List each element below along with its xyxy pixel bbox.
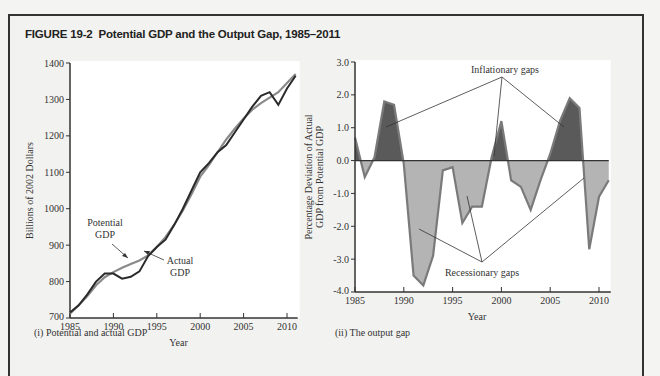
- y-tick-label-right: -1.0: [333, 188, 349, 199]
- x-tick-label-right: 1995: [443, 295, 463, 306]
- x-tick-label-right: 2010: [589, 295, 609, 306]
- annotation-potential-line1: Potential: [87, 217, 123, 228]
- y-tick-label-left: 900: [49, 240, 64, 251]
- x-axis-label-right: Year: [468, 311, 487, 322]
- y-tick-label-right: -2.0: [333, 221, 349, 232]
- y-tick-label-right: -4.0: [333, 285, 349, 296]
- inflationary-gaps-label: Inflationary gaps: [471, 64, 539, 75]
- y-tick-label-right: 2.0: [337, 89, 350, 100]
- y-tick-label-left: 700: [49, 311, 64, 322]
- y-tick-label-left: 1000: [44, 203, 64, 214]
- y-tick-label-right: 0.0: [337, 155, 350, 166]
- y-tick-label-left: 1200: [44, 130, 64, 141]
- x-tick-label-right: 2005: [540, 295, 560, 306]
- caption-left: (i) Potential and actual GDP: [34, 327, 147, 338]
- y-tick-label-right: 3.0: [337, 57, 350, 68]
- y-tick-label-left: 1300: [44, 94, 64, 105]
- y-axis-label-left: Billions of 2002 Dollars: [24, 142, 35, 239]
- x-tick-label-right: 1985: [345, 295, 365, 306]
- x-tick-label-right: 1990: [394, 295, 414, 306]
- x-tick-label-left: 1995: [147, 321, 167, 332]
- x-tick-label-right: 2000: [491, 295, 511, 306]
- recessionary-gaps-label: Recessionary gaps: [445, 267, 519, 278]
- x-tick-label-left: 2010: [277, 321, 297, 332]
- annotation-potential-gdp-line2: GDP: [95, 229, 115, 240]
- y-tick-label-right: 1.0: [337, 122, 350, 133]
- y-tick-label-left: 800: [49, 276, 64, 287]
- caption-right: (ii) The output gap: [335, 327, 410, 338]
- annotation-actual-gdp-line2: GDP: [170, 267, 190, 278]
- annotation-actual-line1: Actual: [167, 255, 194, 266]
- y-axis-label-right-line1: Percentage Deviation of Actual: [303, 114, 314, 239]
- x-tick-label-left: 2000: [190, 321, 210, 332]
- x-axis-label-left: Year: [169, 337, 188, 348]
- y-tick-label-right: -3.0: [333, 254, 349, 265]
- y-tick-label-left: 1100: [44, 167, 64, 178]
- y-axis-label-right-line2: GDP from Potential GDP: [314, 126, 325, 229]
- y-tick-label-left: 1400: [44, 58, 64, 69]
- x-tick-label-left: 2005: [234, 321, 254, 332]
